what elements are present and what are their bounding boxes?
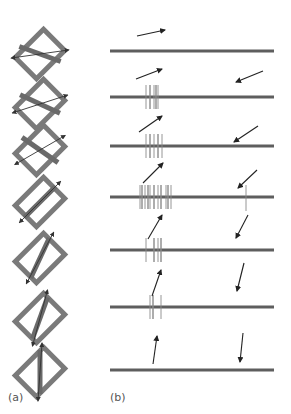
- motion-arrow-right-icon: [240, 333, 243, 362]
- double-arrow-icon: [19, 181, 60, 222]
- motion-arrow-left-icon: [152, 270, 161, 296]
- motion-arrow-left-icon: [143, 163, 163, 183]
- motion-arrow-left-icon: [137, 30, 165, 36]
- spike-row-5: [110, 215, 274, 262]
- receptive-field-6: [15, 290, 64, 346]
- spike-row-6: [110, 263, 274, 319]
- motion-arrow-right-icon: [238, 170, 257, 188]
- motion-arrow-left-icon: [148, 215, 162, 239]
- receptive-field-3: [15, 125, 65, 174]
- figure-canvas: [0, 0, 291, 414]
- motion-arrow-right-icon: [237, 263, 244, 291]
- spike-row-3: [110, 116, 274, 158]
- motion-arrow-right-icon: [234, 126, 258, 142]
- receptive-field-2: [12, 79, 67, 128]
- panel-a-receptive-fields: [11, 29, 68, 401]
- motion-arrow-left-icon: [139, 116, 162, 132]
- spike-row-2: [110, 69, 274, 109]
- spike-row-7: [110, 333, 274, 370]
- receptive-field-4: [15, 177, 64, 226]
- motion-arrow-right-icon: [236, 71, 263, 82]
- spike-row-4: [110, 163, 274, 211]
- panel-b-spike-trains: [110, 30, 274, 370]
- receptive-field-5: [15, 232, 64, 283]
- motion-arrow-left-icon: [153, 336, 157, 364]
- panel-label-a: (a): [8, 391, 23, 404]
- motion-arrow-left-icon: [136, 69, 162, 79]
- motion-arrow-right-icon: [236, 215, 248, 238]
- receptive-field-1: [11, 29, 68, 78]
- panel-label-b: (b): [110, 391, 126, 404]
- spike-row-1: [110, 30, 274, 51]
